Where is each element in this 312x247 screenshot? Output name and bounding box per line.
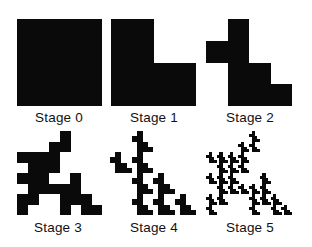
stage-2-fractal bbox=[206, 19, 292, 106]
stage-3-label: Stage 3 bbox=[8, 220, 108, 235]
stage-4-fractal bbox=[110, 131, 196, 215]
stage-5-fractal bbox=[206, 131, 292, 215]
stage-1-fractal bbox=[111, 19, 196, 106]
stage-0-fractal bbox=[17, 19, 102, 106]
stage-4-label: Stage 4 bbox=[104, 220, 204, 235]
stage-0-label: Stage 0 bbox=[9, 110, 109, 125]
stage-2-label: Stage 2 bbox=[200, 110, 300, 125]
stage-1-label: Stage 1 bbox=[104, 110, 204, 125]
stage-3-fractal bbox=[17, 131, 102, 215]
stage-5-label: Stage 5 bbox=[200, 220, 300, 235]
